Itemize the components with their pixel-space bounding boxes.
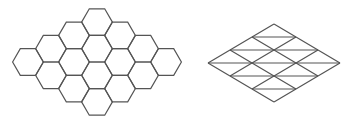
hexagon-cell	[36, 62, 67, 89]
hexagon-cell	[128, 62, 159, 89]
hexagon-cell	[13, 49, 44, 76]
hexagon-cell	[59, 22, 90, 49]
hexagon-cell	[36, 35, 67, 62]
hexagon-cell	[82, 62, 113, 89]
hexagon-cell	[82, 35, 113, 62]
hexagon-cell	[82, 89, 113, 116]
hexagon-cell	[82, 9, 113, 36]
hexagon-cell	[105, 75, 136, 102]
hexagon-cell	[59, 49, 90, 76]
hexagon-cell	[105, 22, 136, 49]
hexagon-cell	[105, 49, 136, 76]
hexagon-cell	[59, 75, 90, 102]
tilings-figure	[0, 0, 361, 123]
hexagon-cell	[151, 49, 182, 76]
figure-canvas	[0, 0, 361, 123]
hexagonal-tiling	[13, 9, 182, 115]
triangular-lattice	[208, 24, 340, 102]
hexagon-cell	[128, 35, 159, 62]
